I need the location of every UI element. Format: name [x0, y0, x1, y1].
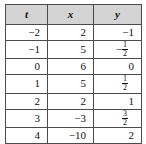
table-row: 3 −3 32	[6, 109, 142, 127]
table-body: −2 2 −1 −1 5 −12 0 6 0 1 5 12 2 2	[6, 25, 142, 139]
table-row: 4 −10 2	[6, 127, 142, 138]
cell-x: 5	[48, 75, 94, 93]
cell-t: 4	[6, 127, 48, 138]
fraction-denominator: 2	[122, 84, 128, 92]
cell-y: −1	[94, 25, 142, 41]
cell-y: 12	[94, 75, 142, 93]
column-header-y: y	[94, 5, 142, 25]
table-row: −2 2 −1	[6, 25, 142, 41]
table-row: 1 5 12	[6, 75, 142, 93]
column-header-t: t	[6, 5, 48, 25]
cell-x: −10	[48, 127, 94, 138]
column-header-x: x	[48, 5, 94, 25]
cell-y: 2	[94, 127, 142, 138]
cell-t: −1	[6, 41, 48, 59]
table-header-row: t x y	[6, 5, 142, 25]
fraction: 32	[122, 110, 128, 127]
negative-fraction: −12	[116, 41, 128, 58]
value-table: t x y −2 2 −1 −1 5 −12 0 6 0 1	[5, 4, 142, 138]
cell-y: −12	[94, 41, 142, 59]
cell-y: 0	[94, 59, 142, 75]
fraction-denominator: 2	[122, 50, 128, 58]
cell-t: 1	[6, 75, 48, 93]
table-row: 0 6 0	[6, 59, 142, 75]
cell-x: 5	[48, 41, 94, 59]
table-row: 2 2 1	[6, 93, 142, 109]
cell-t: 2	[6, 93, 48, 109]
cell-t: 3	[6, 109, 48, 127]
value-table-container: t x y −2 2 −1 −1 5 −12 0 6 0 1	[5, 4, 141, 133]
cell-x: 2	[48, 25, 94, 41]
cell-t: −2	[6, 25, 48, 41]
fraction: 12	[122, 75, 128, 92]
table-row: −1 5 −12	[6, 41, 142, 59]
cell-x: −3	[48, 109, 94, 127]
cell-y: 1	[94, 93, 142, 109]
cell-x: 6	[48, 59, 94, 75]
table-header: t x y	[6, 5, 142, 25]
fraction: 12	[122, 41, 128, 58]
cell-y: 32	[94, 109, 142, 127]
cell-t: 0	[6, 59, 48, 75]
fraction-denominator: 2	[122, 119, 128, 127]
cell-x: 2	[48, 93, 94, 109]
